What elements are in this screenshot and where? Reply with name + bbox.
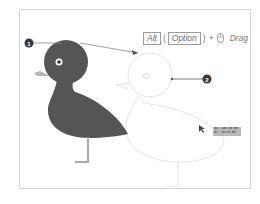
duplicate-duck-preview <box>116 53 224 186</box>
callout-2: 2 <box>171 75 212 84</box>
open-paren: ( <box>162 33 167 43</box>
shortcut-hint: Alt ( Option ) + Drag <box>143 31 248 45</box>
alt-key: Alt <box>143 32 161 45</box>
tooltip-dy: dY: 15.83 mm <box>214 131 240 135</box>
move-distance-tooltip: dX: 195.00 mm dY: 15.83 mm <box>213 127 241 136</box>
option-key: Option <box>168 32 201 45</box>
close-paren: ) <box>202 33 207 43</box>
duck-body <box>48 80 128 138</box>
mouse-icon <box>217 33 225 43</box>
plus-sign: + <box>208 33 215 43</box>
duck-leg <box>75 137 88 162</box>
cursor-arrow-icon <box>199 125 205 133</box>
duck-head <box>44 40 88 84</box>
original-duck <box>34 40 128 162</box>
drag-label: Drag <box>230 33 248 43</box>
